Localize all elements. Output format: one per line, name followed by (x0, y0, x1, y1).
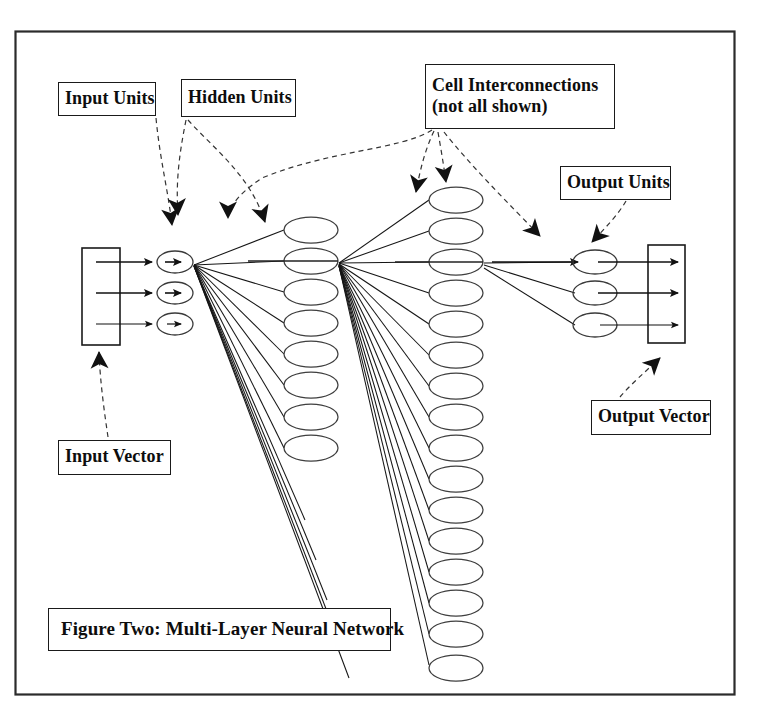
hidden2-node-1 (429, 218, 483, 244)
input-vector-group (82, 248, 152, 345)
figure-page: Input Units Hidden Units Cell Interconne… (0, 0, 757, 719)
leader-output-vector (620, 358, 660, 397)
label-cell-interconnections-line1: Cell Interconnections (432, 75, 609, 96)
leader-hidden-units-b (188, 120, 265, 222)
label-hidden-units[interactable]: Hidden Units (181, 79, 296, 117)
leader-cell-d (444, 132, 540, 236)
leader-cell-b (416, 131, 434, 192)
input-units-group (157, 251, 193, 335)
edges-hidden2-to-output (484, 262, 575, 325)
leader-input-vector (99, 352, 108, 437)
label-output-units[interactable]: Output Units (560, 166, 671, 200)
hidden2-node-8 (429, 435, 483, 461)
output-vector-group (598, 245, 685, 343)
hidden2-node-3 (429, 280, 483, 306)
hidden2-node-6 (429, 373, 483, 399)
label-input-vector-text: Input Vector (65, 446, 165, 467)
hidden2-node-11 (429, 528, 483, 554)
hidden2-node-7 (429, 404, 483, 430)
hidden1-node-6 (284, 404, 338, 430)
hidden1-node-7 (284, 435, 338, 461)
hidden1-node-4 (284, 341, 338, 367)
hidden2-node-10 (429, 497, 483, 523)
hidden2-node-13 (429, 590, 483, 616)
hidden-layer-1-group (248, 217, 338, 461)
leader-output-units (592, 201, 626, 242)
edges-hidden1-to-hidden2 (339, 200, 429, 665)
label-output-vector[interactable]: Output Vector (591, 400, 711, 435)
hidden2-node-5 (429, 342, 483, 368)
leader-hidden-units-a (177, 120, 186, 215)
label-output-vector-text: Output Vector (598, 406, 705, 427)
label-input-units-text: Input Units (65, 88, 150, 109)
hidden1-node-2 (284, 279, 338, 305)
figure-caption-text: Figure Two: Multi-Layer Neural Network (61, 618, 404, 640)
label-cell-interconnections[interactable]: Cell Interconnections (not all shown) (425, 64, 615, 129)
output-vector-box (648, 245, 685, 343)
hidden2-node-12 (429, 559, 483, 585)
label-hidden-units-text: Hidden Units (188, 87, 290, 108)
label-cell-interconnections-line2: (not all shown) (432, 96, 609, 117)
hidden2-node-15 (429, 655, 483, 681)
hidden1-node-3 (284, 310, 338, 336)
hidden2-node-9 (429, 466, 483, 492)
hidden2-node-14 (429, 621, 483, 647)
label-input-units[interactable]: Input Units (58, 82, 156, 116)
figure-caption: Figure Two: Multi-Layer Neural Network (48, 608, 391, 651)
leader-input-units (156, 118, 172, 225)
hidden-layer-2-group (395, 187, 483, 681)
label-input-vector[interactable]: Input Vector (58, 440, 171, 475)
label-output-units-text: Output Units (567, 172, 665, 193)
hidden1-node-0 (284, 217, 338, 243)
hidden2-node-4 (429, 311, 483, 337)
hidden1-node-5 (284, 372, 338, 398)
leader-cell-c (438, 132, 446, 182)
hidden2-node-0 (429, 187, 483, 213)
